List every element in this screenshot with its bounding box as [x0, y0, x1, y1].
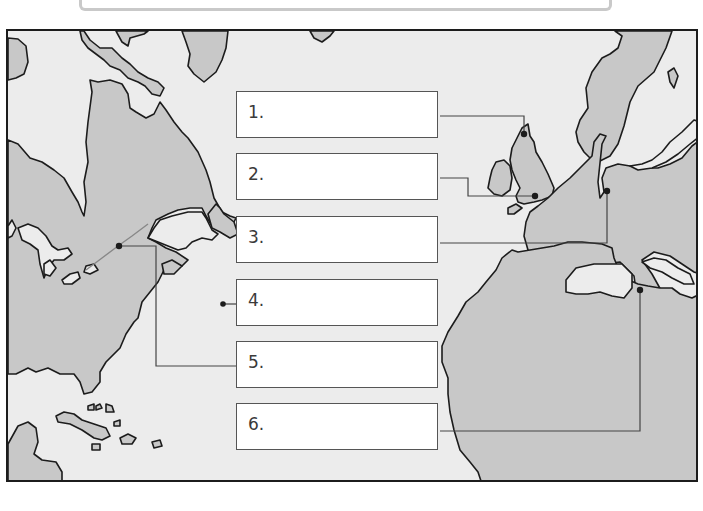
label-box-4[interactable]: 4. — [236, 279, 438, 326]
label-box-5[interactable]: 5. — [236, 341, 438, 388]
label-number: 6. — [248, 414, 264, 434]
label-box-1[interactable]: 1. — [236, 91, 438, 138]
label-number: 5. — [248, 352, 264, 372]
label-number: 3. — [248, 227, 264, 247]
marker-dot — [521, 131, 527, 137]
label-box-2[interactable]: 2. — [236, 153, 438, 200]
label-number: 1. — [248, 102, 264, 122]
label-number: 2. — [248, 164, 264, 184]
header-banner — [79, 0, 612, 11]
label-number: 4. — [248, 290, 264, 310]
label-box-6[interactable]: 6. — [236, 403, 438, 450]
label-box-3[interactable]: 3. — [236, 216, 438, 263]
